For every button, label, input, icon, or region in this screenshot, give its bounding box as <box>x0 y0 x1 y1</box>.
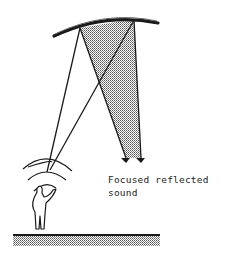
caption-line-1: Focused reflected <box>108 173 209 186</box>
caption-label: Focused reflected sound <box>108 173 209 199</box>
caption-line-2: sound <box>108 186 209 199</box>
person-icon <box>33 186 56 229</box>
shaded-focus-zone <box>80 19 141 158</box>
ground-floor <box>13 235 160 246</box>
sound-wave-arcs <box>23 159 72 191</box>
arrowhead-icon <box>121 158 145 163</box>
incident-ray-left <box>47 28 80 172</box>
reflected-sound-diagram <box>0 0 228 263</box>
